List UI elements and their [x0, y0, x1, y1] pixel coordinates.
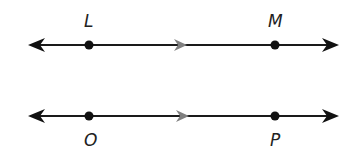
point-l — [85, 41, 94, 50]
line-op: O P — [28, 109, 339, 150]
point-o — [85, 112, 94, 121]
parallel-lines-diagram: L M O P — [0, 0, 350, 162]
label-o: O — [84, 130, 97, 150]
label-m: M — [268, 11, 283, 31]
label-l: L — [84, 11, 93, 31]
line-lm: L M — [28, 11, 339, 52]
label-p: P — [270, 130, 281, 150]
point-p — [271, 112, 280, 121]
point-m — [271, 41, 280, 50]
